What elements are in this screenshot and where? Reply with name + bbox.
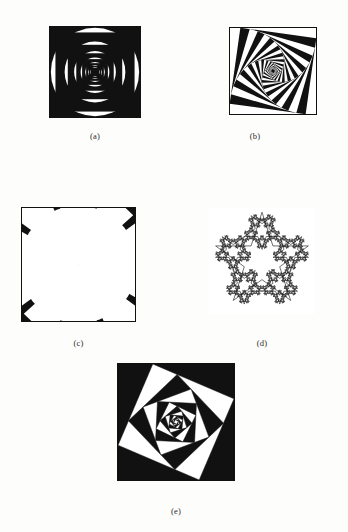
figure-b-rotating-nested-squares bbox=[229, 27, 317, 115]
figure-a-caption: (a) bbox=[49, 131, 141, 141]
figure-e-square-spiral-whirl bbox=[117, 363, 235, 481]
figure-c-caption: (c) bbox=[21, 338, 136, 348]
figure-a-nested-circles-and-squares bbox=[49, 26, 141, 118]
figure-c-spiral-wedge-vortex bbox=[21, 207, 136, 322]
figure-e-caption: (e) bbox=[117, 506, 235, 516]
figure-plate: (a) (b) (c) (d) (e) bbox=[0, 0, 348, 532]
figure-b-caption: (b) bbox=[209, 131, 301, 141]
figure-d-caption: (d) bbox=[209, 338, 315, 348]
figure-d-recursive-star-fractal bbox=[209, 208, 315, 314]
